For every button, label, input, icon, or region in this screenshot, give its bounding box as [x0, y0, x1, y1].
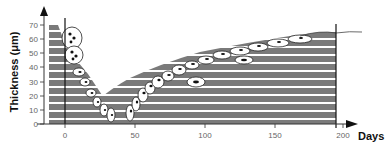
svg-text:10: 10 — [29, 106, 38, 115]
x-axis-arrow-icon — [346, 120, 358, 128]
svg-text:50: 50 — [29, 49, 38, 58]
svg-text:50: 50 — [131, 131, 140, 140]
svg-text:200: 200 — [336, 131, 350, 140]
svg-text:40: 40 — [29, 63, 38, 72]
svg-text:0: 0 — [34, 120, 39, 129]
x-ticks — [65, 124, 343, 128]
x-axis-title: Days — [358, 130, 384, 142]
svg-text:30: 30 — [29, 78, 38, 87]
svg-text:20: 20 — [29, 92, 38, 101]
x-tick-labels: 0 50 100 150 200 — [63, 131, 350, 140]
svg-text:0: 0 — [63, 131, 68, 140]
y-axis — [40, 6, 48, 124]
thickness-diagram: 0 10 20 30 40 50 60 70 0 50 100 150 200 … — [0, 0, 392, 149]
svg-text:70: 70 — [29, 21, 38, 30]
svg-text:150: 150 — [268, 131, 282, 140]
svg-text:60: 60 — [29, 35, 38, 44]
svg-text:100: 100 — [198, 131, 212, 140]
y-ticks — [40, 25, 44, 124]
y-axis-title: Thickness (μm) — [8, 31, 20, 112]
y-tick-labels: 0 10 20 30 40 50 60 70 — [29, 21, 38, 129]
y-axis-arrow-icon — [40, 6, 48, 16]
